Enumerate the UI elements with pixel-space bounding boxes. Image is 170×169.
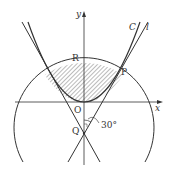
y-axis-arrow-icon (82, 11, 86, 17)
x-axis-label: x (155, 103, 160, 113)
point-p-label: P (121, 67, 127, 77)
y-axis-label: y (75, 9, 82, 19)
curve-c-label: C (129, 22, 136, 32)
point-q (83, 132, 85, 134)
line-l-label: l (146, 22, 149, 32)
right-angle-mark (84, 124, 87, 127)
angle-label: 30° (101, 120, 117, 130)
point-q-label: Q (72, 126, 79, 136)
angle-arc (84, 120, 91, 122)
point-r-label: R (72, 53, 79, 63)
origin-label: O (74, 105, 81, 115)
diagram-canvas: y x O R P Q C l 30° (0, 0, 170, 169)
